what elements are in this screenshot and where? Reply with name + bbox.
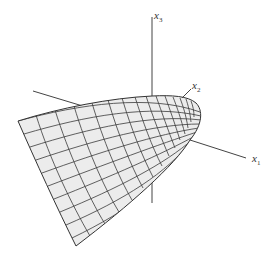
back-axis-line [33, 91, 86, 107]
x1-axis-label: x1 [251, 152, 261, 167]
surface-fill [18, 96, 201, 246]
x1-axis [190, 140, 246, 158]
x3-axis-label: x3 [153, 9, 163, 24]
paraboloid-surface [18, 96, 201, 246]
x2-axis-label: x2 [191, 79, 201, 94]
x2-axis [182, 89, 191, 98]
paraboloid-diagram: x3 x2 x1 [0, 0, 274, 254]
